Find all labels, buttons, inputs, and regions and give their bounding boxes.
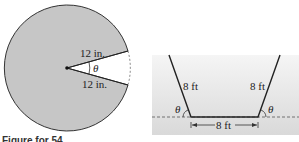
bottom-label: 8 ft [216, 119, 231, 131]
right-side-label: 8 ft [250, 80, 265, 92]
angle-arc [89, 62, 90, 74]
circle-figure: 12 in. 12 in. θ [4, 5, 130, 131]
center-point [65, 66, 69, 70]
left-angle-label: θ [175, 103, 181, 115]
right-angle-label: θ [268, 103, 274, 115]
radius-label-top: 12 in. [80, 47, 105, 59]
radius-label-bottom: 12 in. [82, 78, 107, 90]
left-side-label: 8 ft [183, 80, 198, 92]
trough-figure: 8 ft 8 ft θ θ 8 ft [152, 55, 299, 135]
angle-label-theta: θ [93, 62, 99, 74]
sector-dashed-arc [128, 51, 130, 85]
figure-canvas: 12 in. 12 in. θ 8 ft 8 ft θ θ 8 ft [0, 0, 299, 142]
figure-caption: Figure for 54 [2, 136, 63, 142]
